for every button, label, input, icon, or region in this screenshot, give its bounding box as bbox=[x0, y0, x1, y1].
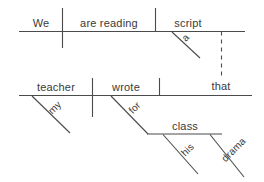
label-we: We bbox=[33, 17, 50, 29]
label-teacher: teacher bbox=[37, 81, 75, 93]
label-for: for bbox=[126, 99, 143, 116]
label-wrote: wrote bbox=[111, 81, 140, 93]
sentence-diagram-canvas: We are reading script a that teacher wro… bbox=[0, 0, 264, 182]
sentence-diagram: We are reading script a that teacher wro… bbox=[0, 0, 264, 182]
his-modifier-slant bbox=[163, 135, 198, 175]
preposition-slant bbox=[111, 96, 148, 134]
label-my: my bbox=[46, 99, 63, 116]
label-script: script bbox=[174, 17, 201, 29]
label-are-reading: are reading bbox=[80, 17, 138, 29]
label-a: a bbox=[179, 32, 191, 44]
label-that: that bbox=[211, 80, 230, 92]
label-drama: drama bbox=[219, 135, 248, 164]
label-class: class bbox=[172, 120, 198, 132]
